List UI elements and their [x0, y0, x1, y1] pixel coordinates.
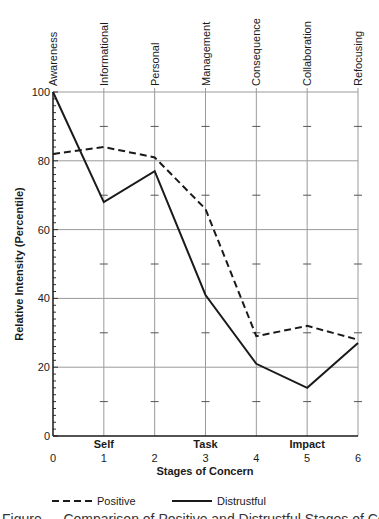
- x-tick-label: 2: [152, 452, 158, 464]
- x-axis-title: Stages of Concern: [156, 465, 253, 477]
- legend: PositiveDistrustful: [52, 495, 266, 507]
- stage-label: Management: [200, 22, 212, 86]
- legend-label-distrustful: Distrustful: [217, 495, 266, 507]
- y-tick-label: 40: [38, 292, 50, 304]
- stage-label: Awareness: [47, 31, 59, 86]
- x-tick-label: 4: [253, 452, 259, 464]
- x-tick-label: 1: [101, 452, 107, 464]
- x-tick-label: 6: [355, 452, 361, 464]
- y-axis-title: Relative Intensity (Percentile): [13, 187, 25, 341]
- stage-label: Informational: [98, 22, 110, 86]
- stage-label: Personal: [149, 43, 161, 86]
- stage-label: Consequence: [250, 18, 262, 86]
- y-tick-label: 20: [38, 361, 50, 373]
- grid-cross-ticks: [100, 126, 362, 401]
- legend-label-positive: Positive: [97, 495, 136, 507]
- stage-group-labels: SelfTaskImpact: [94, 438, 325, 450]
- stage-label: Refocusing: [352, 31, 364, 86]
- stage-label: Collaboration: [301, 21, 313, 86]
- y-tick-label: 80: [38, 155, 50, 167]
- group-label-impact: Impact: [289, 438, 325, 450]
- y-axis-tick-labels: 020406080100: [32, 86, 50, 442]
- x-tick-label: 0: [50, 452, 56, 464]
- x-tick-label: 5: [304, 452, 310, 464]
- y-tick-label: 0: [44, 430, 50, 442]
- group-label-self: Self: [94, 438, 115, 450]
- x-tick-label: 3: [202, 452, 208, 464]
- y-tick-label: 60: [38, 224, 50, 236]
- stage-name-labels: AwarenessInformationalPersonalManagement…: [47, 18, 364, 86]
- y-tick-label: 100: [32, 86, 50, 98]
- figure-caption: Figure — Comparison of Positive and Dist…: [2, 510, 379, 519]
- x-axis-tick-labels: 0123456: [50, 452, 361, 464]
- group-label-task: Task: [193, 438, 218, 450]
